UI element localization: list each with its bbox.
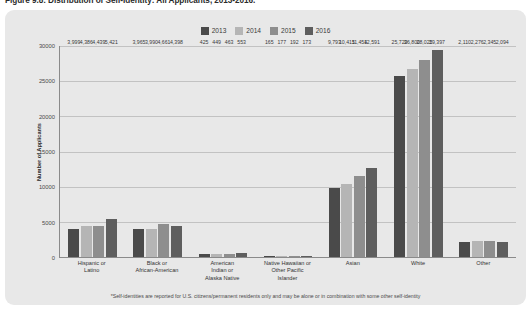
bar-2016[interactable]: 553 [236, 253, 247, 257]
bar-value-label: 5,421 [105, 40, 118, 45]
bar-slot: 4,398 [171, 46, 182, 257]
bar-slot: 3,999 [68, 46, 79, 257]
x-axis-label-line: Other Pacific [256, 267, 319, 274]
bar-slot: 449 [211, 46, 222, 257]
y-tick-label: 15000 [39, 149, 55, 155]
y-tick-label: 30000 [39, 43, 55, 49]
x-axis-label: Asian [320, 260, 385, 282]
bar-value-label: 2,276 [471, 40, 484, 45]
x-axis-label: AmericanIndian orAlaska Native [190, 260, 255, 282]
bar-2013[interactable]: 425 [199, 254, 210, 257]
bar-slot: 10,415 [341, 46, 352, 257]
bar-group: 9,79310,41511,45412,591 [321, 46, 386, 257]
bar-value-label: 12,591 [364, 40, 380, 45]
bar-value-label: 2,110 [458, 40, 471, 45]
bar-group: 2,1102,2762,3452,094 [451, 46, 516, 257]
bar-value-label: 173 [302, 40, 311, 45]
bar-group: 3,9653,9904,6614,398 [125, 46, 190, 257]
bar-value-label: 3,965 [132, 40, 145, 45]
bar-slot: 3,990 [146, 46, 157, 257]
x-axis-label-line: Latino [60, 267, 123, 274]
bar-2016[interactable]: 5,421 [106, 219, 117, 257]
legend-swatch-2015 [270, 27, 278, 35]
legend-item-2016[interactable]: 2016 [305, 27, 331, 35]
legend-item-2013[interactable]: 2013 [201, 27, 227, 35]
bar-value-label: 165 [265, 40, 274, 45]
bar-slot: 4,386 [81, 46, 92, 257]
x-axis-label: Other [451, 260, 516, 282]
bar-2015[interactable]: 11,454 [354, 176, 365, 257]
legend-label-2016: 2016 [316, 28, 331, 35]
bar-2015[interactable]: 192 [289, 256, 300, 257]
bar-value-label: 449 [212, 40, 221, 45]
bar-2016[interactable]: 2,094 [497, 242, 508, 257]
legend-swatch-2016 [305, 27, 313, 35]
bar-value-label: 3,990 [145, 40, 158, 45]
bar-2014[interactable]: 10,415 [341, 184, 352, 257]
bar-2013[interactable]: 9,793 [329, 188, 340, 257]
legend-label-2015: 2015 [281, 28, 296, 35]
bar-slot: 2,276 [472, 46, 483, 257]
bar-2015[interactable]: 4,439 [93, 226, 104, 257]
bar-2014[interactable]: 177 [276, 256, 287, 257]
bar-2016[interactable]: 173 [301, 256, 312, 257]
bar-2013[interactable]: 25,729 [394, 76, 405, 257]
chart-panel: 2013201420152016 Number of Applicants 05… [5, 10, 526, 305]
bar-value-label: 4,661 [157, 40, 170, 45]
bar-2013[interactable]: 2,110 [459, 242, 470, 257]
bar-value-label: 4,398 [170, 40, 183, 45]
bar-2016[interactable]: 4,398 [171, 226, 182, 257]
x-axis-label-line: Islander [256, 275, 319, 282]
bar-2013[interactable]: 3,965 [133, 229, 144, 257]
figure-footnote: *Self-identities are reported for U.S. c… [5, 293, 526, 299]
bar-group: 165177192173 [255, 46, 320, 257]
x-axis-label-line: White [386, 260, 449, 267]
bar-groups: 3,9994,3864,4395,4213,9653,9904,6614,398… [60, 46, 516, 257]
x-axis-label-line: Other [452, 260, 515, 267]
bar-2016[interactable]: 12,591 [366, 168, 377, 257]
bar-2015[interactable]: 28,025 [419, 60, 430, 257]
bar-value-label: 463 [225, 40, 234, 45]
x-axis-label: Black orAfrican-American [124, 260, 189, 282]
x-axis-label-line: Black or [125, 260, 188, 267]
legend-item-2014[interactable]: 2014 [235, 27, 261, 35]
bar-slot: 553 [236, 46, 247, 257]
bar-2013[interactable]: 3,999 [68, 229, 79, 257]
bar-value-label: 425 [200, 40, 209, 45]
bar-slot: 165 [264, 46, 275, 257]
bar-value-label: 553 [237, 40, 246, 45]
y-tick-label: 20000 [39, 114, 55, 120]
bar-2016[interactable]: 29,397 [432, 50, 443, 257]
bar-slot: 173 [301, 46, 312, 257]
legend-label-2014: 2014 [246, 28, 261, 35]
legend-swatch-2013 [201, 27, 209, 35]
x-axis-label-line: African-American [125, 267, 188, 274]
bar-2015[interactable]: 4,661 [158, 224, 169, 257]
bar-slot: 192 [289, 46, 300, 257]
bar-group: 3,9994,3864,4395,421 [60, 46, 125, 257]
y-tick-label: 10000 [39, 184, 55, 190]
bar-slot: 25,729 [394, 46, 405, 257]
bar-slot: 2,345 [484, 46, 495, 257]
bar-2015[interactable]: 2,345 [484, 241, 495, 257]
bar-2013[interactable]: 165 [264, 256, 275, 257]
bar-slot: 11,454 [354, 46, 365, 257]
bar-slot: 177 [276, 46, 287, 257]
x-axis-label-line: Native Hawaiian or [256, 260, 319, 267]
legend-item-2015[interactable]: 2015 [270, 27, 296, 35]
bar-value-label: 3,999 [67, 40, 80, 45]
bar-2014[interactable]: 4,386 [81, 226, 92, 257]
bar-slot: 26,800 [407, 46, 418, 257]
chart-legend: 2013201420152016 [5, 27, 526, 35]
bar-2015[interactable]: 463 [224, 254, 235, 257]
bar-2014[interactable]: 26,800 [407, 69, 418, 257]
bar-2014[interactable]: 3,990 [146, 229, 157, 257]
bar-group: 425449463553 [190, 46, 255, 257]
x-axis-label: Native Hawaiian orOther PacificIslander [255, 260, 320, 282]
bar-slot: 4,439 [93, 46, 104, 257]
bar-slot: 5,421 [106, 46, 117, 257]
bar-value-label: 2,094 [496, 40, 509, 45]
x-axis-label: Hispanic orLatino [59, 260, 124, 282]
bar-2014[interactable]: 449 [211, 254, 222, 257]
bar-2014[interactable]: 2,276 [472, 241, 483, 257]
